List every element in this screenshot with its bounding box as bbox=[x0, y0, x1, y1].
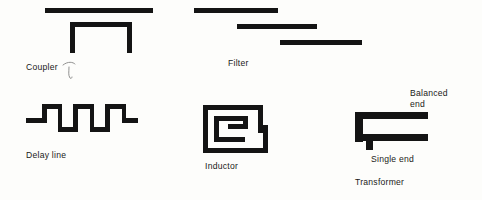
inductor-outer-left bbox=[203, 105, 208, 153]
transformer-symbol bbox=[355, 112, 435, 150]
delay-line-label: Delay line bbox=[26, 150, 66, 161]
transformer-label: Transformer bbox=[355, 177, 404, 188]
inductor-inner-bottom bbox=[214, 137, 245, 142]
inductor-outer-tail bbox=[263, 125, 268, 153]
coupler-symbol bbox=[45, 8, 153, 53]
coupler-bridge bbox=[70, 22, 132, 27]
filter-resonator-1 bbox=[194, 8, 278, 13]
transformer-upper-arm bbox=[355, 112, 428, 119]
transformer-single-end-stub bbox=[366, 134, 373, 150]
delay-line-input-stub bbox=[26, 118, 42, 123]
inductor-outer-top bbox=[203, 105, 263, 110]
coupler-label: Coupler bbox=[26, 62, 58, 73]
filter-resonator-3 bbox=[280, 40, 362, 45]
single-end-label: Single end bbox=[371, 154, 414, 165]
delay-line-output-stub bbox=[122, 118, 138, 123]
inductor-symbol bbox=[203, 105, 273, 153]
filter-symbol bbox=[194, 8, 364, 48]
inductor-outer-bottom bbox=[203, 148, 268, 153]
filter-label: Filter bbox=[228, 58, 249, 69]
balanced-end-label: Balanced end bbox=[410, 88, 448, 109]
circuit-symbol-figure: Coupler Filter Delay line bbox=[0, 0, 482, 200]
handwritten-annotation-icon bbox=[60, 59, 82, 81]
filter-resonator-2 bbox=[237, 24, 317, 29]
coupler-top-line bbox=[45, 8, 153, 13]
coupler-right-leg bbox=[127, 22, 132, 53]
delay-line-symbol bbox=[26, 104, 138, 136]
inductor-center-stub bbox=[228, 124, 248, 129]
inductor-label: Inductor bbox=[205, 161, 238, 172]
